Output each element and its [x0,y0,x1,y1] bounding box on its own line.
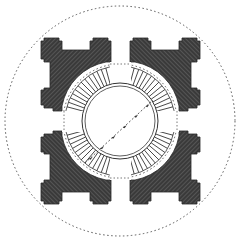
architectural-plan [0,0,241,241]
inner-circle-inner [85,86,155,156]
